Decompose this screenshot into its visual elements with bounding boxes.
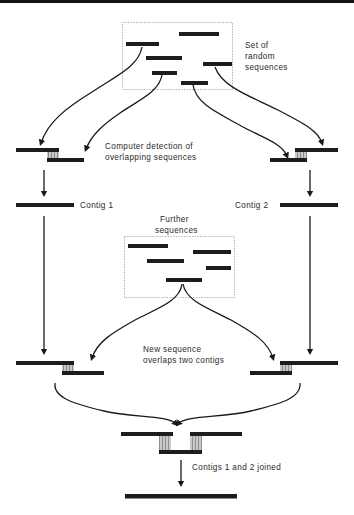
label-computer-detection: Computer detection of overlapping sequen… [105, 142, 197, 162]
flow-curve [193, 85, 287, 156]
contig-fragment-bar [16, 148, 59, 152]
right-contig-assembly [270, 148, 338, 162]
label-line: random [245, 52, 275, 61]
label-line: New sequence [143, 345, 201, 354]
label-line: overlapping sequences [105, 153, 197, 162]
label-contig-1: Contig 1 [80, 201, 113, 210]
contig-bar [190, 432, 242, 436]
further-sequence-bar [193, 250, 231, 254]
final-contig-bar [125, 494, 237, 499]
flow-curve [215, 67, 322, 143]
label-contig-2: Contig 2 [235, 201, 268, 210]
label-further-sequences: Further sequences [155, 215, 198, 235]
flow-curve [86, 75, 162, 149]
new-sequence-bar [250, 371, 292, 375]
further-sequence-bar [206, 266, 231, 270]
diagram-canvas: Set of random sequences Computer detecti… [0, 0, 354, 515]
label-new-sequence-overlaps: New sequence overlaps two contigs [143, 345, 224, 365]
further-sequence-bars [128, 244, 231, 282]
joined-contig-assembly [121, 432, 242, 454]
overlap-band [190, 434, 202, 452]
further-sequence-bar [128, 244, 168, 248]
merge-curves [55, 383, 300, 424]
contig-fragment-bar [270, 158, 307, 162]
flow-curve [41, 47, 142, 143]
overlap-band [159, 434, 171, 452]
lower-right-contig [250, 361, 338, 375]
contig-bar [16, 361, 74, 365]
contig-2-bar [280, 203, 338, 207]
collapse-arrows [44, 170, 310, 194]
label-contigs-joined: Contigs 1 and 2 joined [192, 463, 281, 472]
contig-1-bar [16, 203, 74, 207]
label-line: sequences [245, 63, 288, 72]
new-sequence-bar [62, 371, 104, 375]
left-contig-assembly [16, 148, 84, 162]
label-line: sequences [155, 226, 198, 235]
contig-bar [280, 361, 338, 365]
random-sequence-bar [181, 81, 208, 85]
bridging-sequence-bar [159, 450, 202, 454]
random-sequence-bar [203, 62, 232, 66]
contig-bar [121, 432, 173, 436]
random-sequence-bars [126, 32, 232, 85]
random-sequence-bar [152, 71, 177, 75]
label-line: Set of [245, 41, 269, 50]
random-sequence-bar [146, 56, 182, 60]
further-sequence-bar [166, 278, 202, 282]
flow-curve [55, 383, 176, 424]
random-sequence-bar [179, 32, 219, 36]
further-sequence-bar [147, 259, 184, 263]
random-sequence-bar [126, 42, 159, 46]
label-line: overlaps two contigs [143, 356, 224, 365]
lower-left-contig [16, 361, 104, 375]
label-set-of-random-sequences: Set of random sequences [245, 41, 288, 72]
flow-curve [178, 383, 300, 424]
contig-fragment-bar [295, 148, 338, 152]
assembly-diagram: Set of random sequences Computer detecti… [0, 0, 354, 515]
contig-fragment-bar [47, 158, 84, 162]
label-line: Further [160, 215, 189, 224]
label-line: Computer detection of [105, 142, 193, 151]
